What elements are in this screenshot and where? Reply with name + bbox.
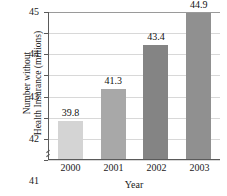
bar bbox=[143, 45, 168, 159]
x-axis-tick-label: 2003 bbox=[187, 162, 212, 173]
bar bbox=[101, 89, 126, 159]
y-axis-tick-label: 44 bbox=[29, 49, 39, 59]
x-axis-tick-labels: 2000200120022003 bbox=[49, 162, 221, 173]
x-axis-tick-label: 2001 bbox=[101, 162, 126, 173]
bar-value-label: 44.9 bbox=[190, 0, 208, 10]
x-axis-tick-label: 2002 bbox=[144, 162, 169, 173]
y-axis-tick-label: 45 bbox=[29, 7, 39, 17]
bar-slot: 43.4 bbox=[143, 12, 168, 159]
y-axis-title: Number without Health Insurance (million… bbox=[0, 0, 28, 168]
bar-slot: 39.8 bbox=[58, 12, 83, 159]
bar-chart: Number without Health Insurance Number w… bbox=[0, 0, 227, 196]
bar-value-label: 39.8 bbox=[62, 108, 80, 118]
x-axis-title: Year bbox=[48, 179, 220, 190]
gridline bbox=[48, 160, 220, 161]
x-axis-tick-label: 2000 bbox=[58, 162, 83, 173]
y-axis-tick-label: 42 bbox=[29, 134, 39, 144]
chart-title: Number without Health Insurance bbox=[52, 0, 202, 2]
bar-value-label: 43.4 bbox=[147, 32, 165, 42]
y-axis-tick-label: 43 bbox=[29, 92, 39, 102]
bar bbox=[58, 121, 83, 159]
plot-area: 4544434241403938 39.841.343.444.9 bbox=[48, 12, 220, 160]
bar bbox=[186, 13, 211, 159]
bar-slot: 41.3 bbox=[101, 12, 126, 159]
x-axis-line bbox=[48, 159, 220, 160]
y-axis-tick-label: 41 bbox=[29, 176, 39, 186]
bar-value-label: 41.3 bbox=[104, 76, 122, 86]
y-axis-tick: 38 bbox=[44, 160, 48, 161]
bar-slot: 44.9 bbox=[186, 12, 211, 159]
bar-series: 39.841.343.444.9 bbox=[49, 12, 220, 159]
